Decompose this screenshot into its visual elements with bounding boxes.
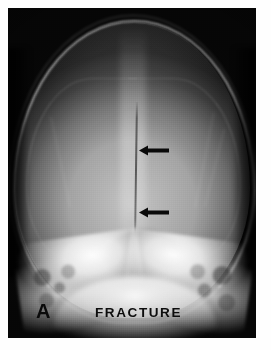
panel-letter: A bbox=[36, 301, 50, 321]
radiograph-image: A FRACTURE bbox=[8, 8, 256, 338]
right-mastoid-air-cells bbox=[186, 258, 244, 320]
left-mastoid-air-cells bbox=[26, 260, 80, 318]
figure-page: A FRACTURE bbox=[0, 0, 271, 350]
upper-fracture-arrow bbox=[139, 145, 169, 156]
lower-fracture-arrow bbox=[139, 207, 169, 218]
fracture-caption: FRACTURE bbox=[95, 306, 182, 320]
